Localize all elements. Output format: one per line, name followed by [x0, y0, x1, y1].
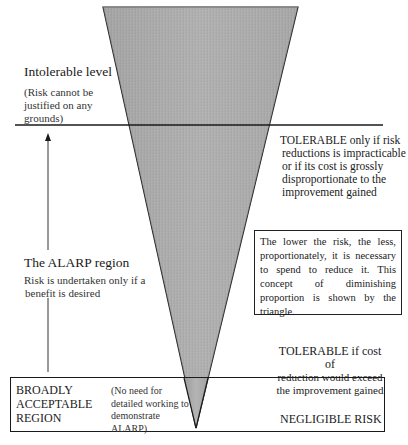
alarp-desc-line: Risk is undertaken only if a	[24, 274, 145, 287]
broadly-acceptable-description: (No need for detailed working to demonst…	[111, 385, 189, 435]
intolerable-desc-line: justified on any	[24, 99, 93, 112]
diminishing-proportion-note: The lower the risk, the less, proportion…	[254, 230, 402, 315]
alarp-region-title: The ALARP region	[24, 255, 129, 271]
broadly-acceptable-line: ACCEPTABLE	[16, 397, 92, 411]
broadly-acceptable-desc-line: (No need for	[111, 385, 189, 398]
broadly-acceptable-desc-line: demonstrate	[111, 410, 189, 423]
tolerable-lower-line: the improvement gained	[274, 384, 386, 397]
broadly-acceptable-line: REGION	[16, 411, 92, 425]
alarp-desc-line: benefit is desired	[24, 287, 145, 300]
intolerable-desc-line: (Risk cannot be	[24, 86, 93, 99]
tolerable-upper-line: TOLERABLE only if risk	[280, 134, 406, 147]
tolerable-lower-line: reduction would exceed	[274, 371, 386, 384]
tolerable-upper-line: reductions is impracticable	[280, 147, 406, 160]
tolerable-upper-line: or if its cost is grossly	[280, 160, 406, 173]
intolerable-title: Intolerable level	[24, 64, 112, 80]
broadly-acceptable-line: BROADLY	[16, 383, 92, 397]
arrow-up-icon	[45, 133, 51, 141]
negligible-risk-label: NEGLIGIBLE RISK	[280, 412, 382, 427]
intolerable-description: (Risk cannot be justified on any grounds…	[24, 86, 93, 125]
tolerable-lower-line: TOLERABLE if cost of	[274, 345, 386, 371]
broadly-acceptable-title: BROADLY ACCEPTABLE REGION	[16, 383, 92, 425]
tolerable-upper-text: TOLERABLE only if risk reductions is imp…	[280, 134, 406, 199]
alarp-region-description: Risk is undertaken only if a benefit is …	[24, 274, 145, 300]
intolerable-desc-line: grounds)	[24, 112, 93, 125]
tolerable-upper-line: disproportionate to the	[280, 173, 406, 186]
tolerable-upper-line: improvement gained	[280, 186, 406, 199]
tolerable-lower-text: TOLERABLE if cost of reduction would exc…	[274, 345, 386, 397]
broadly-acceptable-desc-line: detailed working to	[111, 398, 189, 411]
broadly-acceptable-desc-line: ALARP)	[111, 423, 189, 436]
